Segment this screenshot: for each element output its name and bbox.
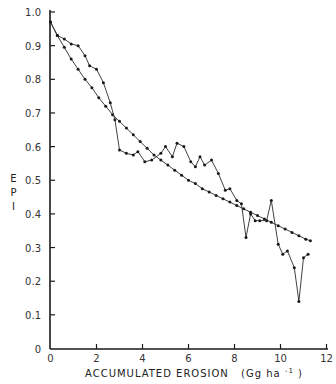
x-axis-title: ACCUMULATED EROSION (Gg ha -1 ) [85, 364, 303, 379]
x-tick-label: 6 [185, 353, 191, 364]
data-point [63, 37, 66, 40]
data-point [132, 154, 135, 157]
series-line [51, 22, 309, 301]
data-point [217, 172, 220, 175]
data-point [228, 187, 231, 190]
data-point [201, 187, 204, 190]
data-point [125, 152, 128, 155]
data-point [90, 86, 93, 89]
data-point [63, 46, 66, 49]
data-point [109, 101, 112, 104]
data-point [113, 118, 116, 121]
x-tick-label: 12 [320, 353, 333, 364]
x-tick-label: 2 [93, 353, 99, 364]
data-point [302, 256, 305, 259]
x-axis-ticks: 024681012 [47, 344, 333, 364]
data-point [286, 249, 289, 252]
data-point [222, 197, 225, 200]
data-point [277, 224, 280, 227]
data-point [153, 154, 156, 157]
data-point [125, 127, 128, 130]
series-observed [49, 21, 310, 303]
data-point [84, 78, 87, 81]
data-point [208, 191, 211, 194]
data-point [166, 164, 169, 167]
data-point [194, 182, 197, 185]
data-point [189, 160, 192, 163]
data-point [309, 239, 312, 242]
y-tick-label: 0.9 [25, 41, 41, 52]
data-point [270, 221, 273, 224]
x-axis-title-exponent: -1 [285, 367, 294, 375]
y-tick-label: 0.2 [25, 276, 41, 287]
data-point [245, 236, 248, 239]
data-point [256, 214, 259, 217]
data-point [143, 160, 146, 163]
x-axis-title-main: ACCUMULATED EROSION [85, 368, 229, 379]
data-point [77, 44, 80, 47]
data-point [132, 133, 135, 136]
data-point [187, 179, 190, 182]
y-tick-label: 0.5 [25, 175, 41, 186]
data-point [88, 64, 91, 67]
data-point [304, 238, 307, 241]
data-point [210, 159, 213, 162]
data-point [164, 145, 167, 148]
data-point [297, 300, 300, 303]
data-point [118, 120, 121, 123]
data-point [281, 253, 284, 256]
data-point [235, 204, 238, 207]
y-tick-label: 0.8 [25, 74, 41, 85]
data-point [159, 159, 162, 162]
data-point [297, 234, 300, 237]
data-point [265, 219, 268, 222]
data-point [254, 219, 257, 222]
data-point [136, 150, 139, 153]
y-tick-label: 0.4 [25, 209, 41, 220]
x-axis-title-unit: (Gg ha [241, 368, 281, 379]
x-tick-label: 10 [274, 353, 287, 364]
data-point [215, 194, 218, 197]
data-point [307, 253, 310, 256]
data-point [70, 58, 73, 61]
y-tick-label: 0.7 [25, 108, 41, 119]
data-point [49, 21, 52, 24]
data-point [199, 155, 202, 158]
x-tick-label: 0 [47, 353, 53, 364]
data-point [139, 140, 142, 143]
data-point [291, 231, 294, 234]
data-point [84, 54, 87, 57]
y-tick-label: 0.6 [25, 142, 41, 153]
svg-text:ACCUMULATED EROSION (Gg: ACCUMULATED EROSION (Gg ha -1 ) [85, 364, 303, 379]
data-point [293, 266, 296, 269]
data-point [228, 201, 231, 204]
data-point [146, 147, 149, 150]
x-tick-label: 8 [231, 353, 237, 364]
y-axis-title-letter-e: E [10, 173, 17, 184]
data-point [180, 174, 183, 177]
y-axis-title: E P I [10, 173, 17, 212]
series-line [51, 22, 311, 241]
data-point [104, 105, 107, 108]
data-point [173, 169, 176, 172]
y-tick-label: 1.0 [25, 7, 41, 18]
data-point [182, 145, 185, 148]
data-point [102, 81, 105, 84]
data-point [203, 164, 206, 167]
data-point [235, 199, 238, 202]
data-point [150, 159, 153, 162]
x-axis-title-close: ) [298, 368, 303, 379]
data-point [118, 148, 121, 151]
data-point [159, 152, 162, 155]
data-point [176, 142, 179, 145]
data-point [258, 219, 261, 222]
data-point [97, 96, 100, 99]
y-axis-title-letter-i: I [12, 201, 16, 212]
data-point [56, 34, 59, 37]
data-point [277, 243, 280, 246]
data-point [284, 228, 287, 231]
data-point [95, 68, 98, 71]
y-tick-label: 0 [35, 344, 41, 355]
data-point [171, 155, 174, 158]
data-point [70, 42, 73, 45]
